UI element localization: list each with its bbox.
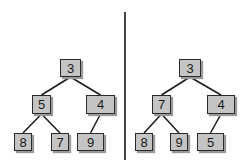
node-label: 8 <box>19 135 26 150</box>
divider-line <box>124 12 126 160</box>
node-label: 8 <box>140 135 147 150</box>
node-label: 3 <box>67 61 74 76</box>
tree-node-right-4: 4 <box>207 95 235 114</box>
tree-edge <box>91 114 101 133</box>
node-label: 3 <box>186 61 193 76</box>
tree-node-right-8: 8 <box>135 133 153 151</box>
node-label: 9 <box>175 135 182 150</box>
tree-node-left-9: 9 <box>77 133 104 151</box>
tree-edge <box>71 77 101 95</box>
tree-edge <box>162 114 180 133</box>
tree-edge <box>162 77 191 95</box>
tree-edge <box>211 114 222 133</box>
tree-edge <box>144 114 162 133</box>
node-label: 4 <box>97 97 104 112</box>
tree-edge <box>42 77 71 95</box>
node-label: 5 <box>38 97 45 112</box>
tree-node-left-4: 4 <box>86 95 115 114</box>
node-label: 4 <box>217 97 224 112</box>
node-label: 9 <box>87 135 94 150</box>
tree-edge <box>23 114 42 133</box>
tree-node-left-7: 7 <box>51 133 69 151</box>
node-label: 5 <box>207 135 214 150</box>
tree-node-right-9: 9 <box>170 133 188 151</box>
node-label: 7 <box>56 135 63 150</box>
tree-node-left-5: 5 <box>32 95 51 114</box>
tree-node-right-3: 3 <box>179 59 201 77</box>
node-label: 7 <box>158 97 165 112</box>
tree-node-left-3: 3 <box>60 59 81 77</box>
tree-edge <box>42 114 61 133</box>
tree-edge <box>190 77 221 95</box>
tree-node-right-7: 7 <box>152 95 171 114</box>
tree-node-left-8: 8 <box>14 133 32 151</box>
tree-node-right-5: 5 <box>197 133 224 151</box>
